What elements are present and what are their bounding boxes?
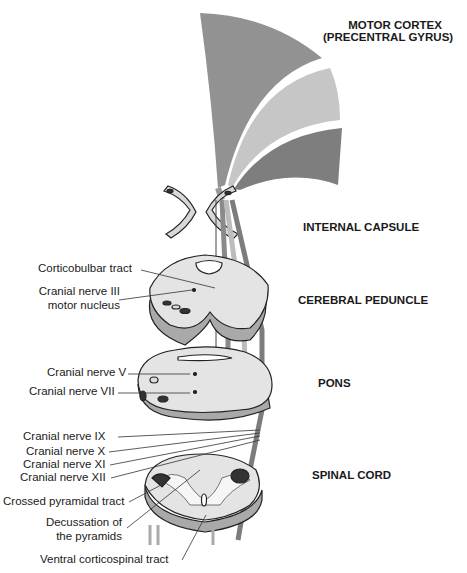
decussation-line1: Decussation of: [28, 515, 122, 529]
cn3-line2: motor nucleus: [38, 298, 120, 312]
label-cranial-nerve-xi: Cranial nerve XI: [23, 458, 105, 470]
label-cranial-nerve-x: Cranial nerve X: [26, 445, 105, 457]
label-cranial-nerve-xii: Cranial nerve XII: [20, 471, 106, 483]
label-cranial-nerve-ix: Cranial nerve IX: [23, 430, 105, 442]
cerebral-peduncle-shape: [149, 255, 268, 345]
decussation-line2: the pyramids: [28, 529, 122, 543]
label-ventral-corticospinal-tract: Ventral corticospinal tract: [40, 553, 168, 565]
region-spinal-cord: SPINAL CORD: [312, 469, 391, 481]
cn3-line1: Cranial nerve III: [38, 284, 120, 298]
label-decussation: Decussation of the pyramids: [28, 515, 122, 543]
label-cranial-nerve-v: Cranial nerve V: [47, 366, 126, 378]
motor-cortex-subtitle: (PRECENTRAL GYRUS): [323, 31, 453, 43]
label-cranial-nerve-vii: Cranial nerve VII: [29, 385, 115, 397]
region-pons: PONS: [318, 377, 351, 389]
label-cranial-nerve-iii: Cranial nerve III motor nucleus: [38, 284, 120, 312]
region-cerebral-peduncle: CEREBRAL PEDUNCLE: [298, 294, 428, 306]
motor-cortex-title: MOTOR CORTEX: [337, 19, 453, 31]
label-crossed-pyramidal-tract: Crossed pyramidal tract: [3, 495, 124, 507]
region-motor-cortex: MOTOR CORTEX (PRECENTRAL GYRUS): [337, 19, 453, 43]
motor-cortex-fan: [200, 13, 342, 200]
pons-shape: [138, 347, 272, 420]
label-corticobulbar-tract: Corticobulbar tract: [38, 262, 132, 274]
region-internal-capsule: INTERNAL CAPSULE: [303, 221, 419, 233]
